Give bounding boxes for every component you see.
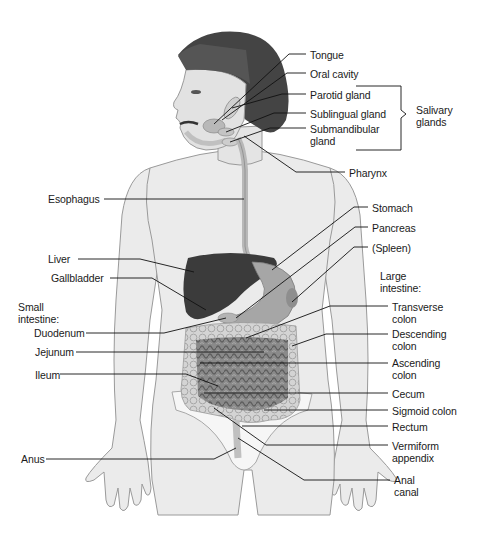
label-transverse-colon: Transversecolon <box>392 301 472 325</box>
label-descending-colon: Descendingcolon <box>392 328 472 352</box>
label-sigmoid-colon: Sigmoid colon <box>392 405 457 417</box>
label-liver: Liver <box>48 253 70 265</box>
label-duodenum: Duodenum <box>34 327 85 339</box>
label-esophagus: Esophagus <box>48 193 100 205</box>
label-oral-cavity: Oral cavity <box>310 68 359 80</box>
label-ileum: Ileum <box>35 369 60 381</box>
label-rectum: Rectum <box>392 421 428 433</box>
label-anal-canal: Analcanal <box>394 474 454 498</box>
rectum-shape <box>236 420 238 458</box>
label-sublingual-gland: Sublingual gland <box>310 108 386 120</box>
label-parotid-gland: Parotid gland <box>310 89 371 101</box>
label-tongue: Tongue <box>310 49 344 61</box>
label-jejunum: Jejunum <box>35 346 74 358</box>
small-intestine-shape <box>196 337 288 411</box>
label-spleen: (Spleen) <box>372 242 411 254</box>
label-pharynx: Pharynx <box>349 167 387 179</box>
label-gallbladder: Gallbladder <box>51 272 104 284</box>
label-vermiform-appendix: Vermiformappendix <box>392 440 472 464</box>
pancreas-shape <box>218 313 238 323</box>
group-label-large-intestine: Largeintestine: <box>380 270 450 294</box>
label-submandibular-gland: Submandibulargland <box>310 123 400 147</box>
label-ascending-colon: Ascendingcolon <box>392 357 472 381</box>
group-label-small-intestine: Smallintestine: <box>18 301 88 325</box>
head <box>174 31 289 150</box>
group-label-salivary-glands: Salivaryglands <box>416 104 476 128</box>
digestive-system-diagram: Tongue Oral cavity Parotid gland Subling… <box>0 0 486 543</box>
label-stomach: Stomach <box>372 202 413 214</box>
label-pancreas: Pancreas <box>372 222 416 234</box>
label-anus: Anus <box>21 453 45 465</box>
label-cecum: Cecum <box>392 388 425 400</box>
